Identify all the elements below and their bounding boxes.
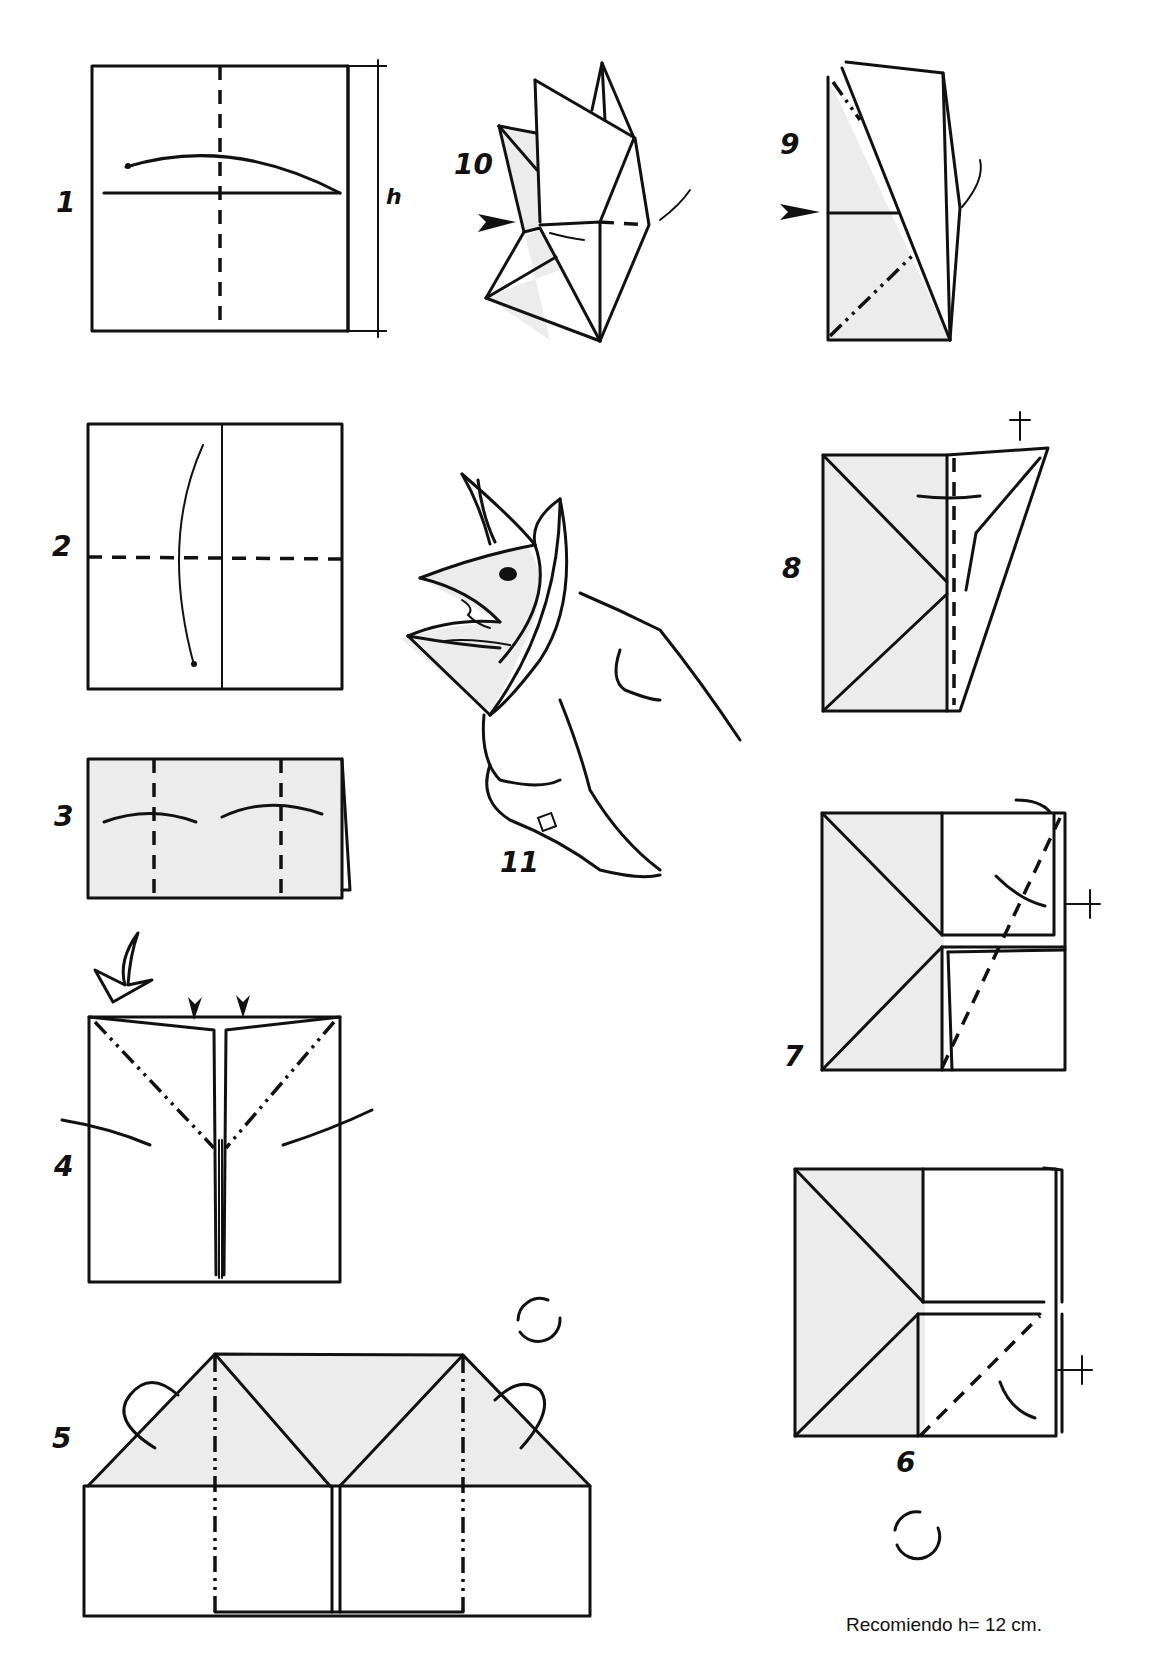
push-arrow-icon	[478, 214, 516, 232]
curved-arrow-icon	[179, 445, 203, 665]
step-1-label: 1	[56, 186, 75, 219]
dimension-h-label: h	[386, 184, 402, 209]
step-9-figure	[780, 62, 981, 340]
step-9-label: 9	[780, 128, 799, 161]
curved-arrow-icon	[550, 233, 584, 240]
curved-arrow-icon	[126, 156, 340, 193]
turn-over-icon	[895, 1512, 940, 1559]
hollow-arrow-icon	[95, 933, 152, 1002]
curved-arrow-icon	[1000, 1382, 1035, 1418]
curved-arrow-icon	[962, 160, 981, 207]
curved-arrow-icon	[660, 190, 690, 220]
step-1-figure	[92, 60, 386, 337]
step-6-label: 6	[896, 1446, 915, 1479]
recommendation-note: Recomiendo h= 12 cm.	[846, 1614, 1042, 1636]
step-4-figure	[62, 933, 372, 1282]
step-7-label: 7	[784, 1040, 803, 1073]
turn-over-icon	[518, 1298, 560, 1341]
step-2-figure	[88, 424, 342, 689]
pivot-icon	[1066, 890, 1100, 918]
step-10-figure	[478, 63, 690, 341]
step-7-figure	[822, 800, 1100, 1070]
step-11-label: 11	[500, 846, 539, 879]
step-5-label: 5	[52, 1422, 71, 1455]
step-11-figure	[400, 474, 740, 877]
step-4-label: 4	[54, 1150, 73, 1183]
curved-arrow-icon	[996, 876, 1045, 906]
step-2-label: 2	[52, 530, 71, 563]
pivot-icon	[1010, 412, 1030, 440]
step-6-figure	[795, 1168, 1092, 1559]
origami-diagram	[0, 0, 1163, 1660]
step-8-figure	[823, 412, 1048, 711]
push-arrow-icon	[236, 995, 250, 1018]
step-8-label: 8	[782, 552, 801, 585]
step-3-label: 3	[54, 800, 73, 833]
step-10-label: 10	[454, 148, 493, 181]
step-5-figure	[84, 1298, 590, 1616]
step-3-figure	[88, 759, 350, 898]
push-arrow-icon	[780, 204, 820, 220]
curved-arrow-icon	[918, 496, 980, 498]
curved-arrow-icon	[1016, 800, 1050, 812]
